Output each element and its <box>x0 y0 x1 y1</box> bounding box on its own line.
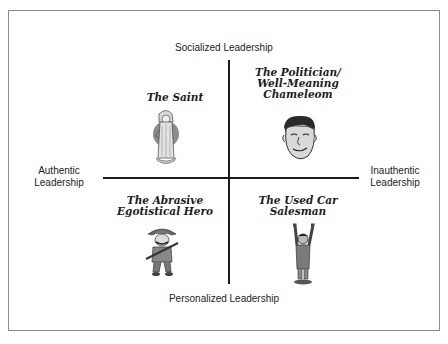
axis-label-left-line2: Leadership <box>28 177 90 189</box>
title-line: Salesman <box>238 206 358 217</box>
title-line: Chameleom <box>238 89 358 100</box>
axis-label-right-line1: Inauthentic <box>362 165 428 177</box>
axis-label-left: Authentic Leadership <box>28 165 90 189</box>
quadrant-title-politician: The Politician/ Well-Meaning Chameleom <box>238 67 358 100</box>
quadrant-title-saint: The Saint <box>120 92 230 103</box>
axis-label-top: Socialized Leadership <box>0 42 448 54</box>
politician-caricature-icon <box>278 113 320 163</box>
saint-figure-icon <box>145 108 185 166</box>
axis-label-right-line2: Leadership <box>362 177 428 189</box>
axis-label-bottom: Personalized Leadership <box>0 293 448 305</box>
salesman-arms-up-icon <box>290 223 316 285</box>
axis-label-left-line1: Authentic <box>28 165 90 177</box>
horizontal-axis <box>103 177 359 179</box>
title-line: The Saint <box>120 92 230 103</box>
quadrant-title-abrasive-hero: The Abrasive Egotistical Hero <box>100 195 230 217</box>
axis-label-right: Inauthentic Leadership <box>362 165 428 189</box>
title-line: Egotistical Hero <box>100 206 230 217</box>
quadrant-title-used-car-salesman: The Used Car Salesman <box>238 195 358 217</box>
cowboy-hero-icon <box>142 226 184 278</box>
